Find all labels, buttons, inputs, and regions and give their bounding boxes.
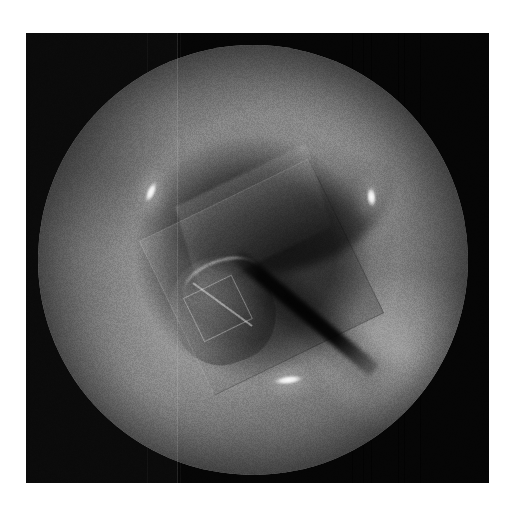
circular-field-of-view (38, 45, 468, 475)
screenshot-canvas: Monochrome wide-angle endoscopic still: … (0, 0, 512, 506)
capture-frame (26, 33, 489, 483)
image-caption: Monochrome wide-angle endoscopic still: … (0, 16, 1, 17)
